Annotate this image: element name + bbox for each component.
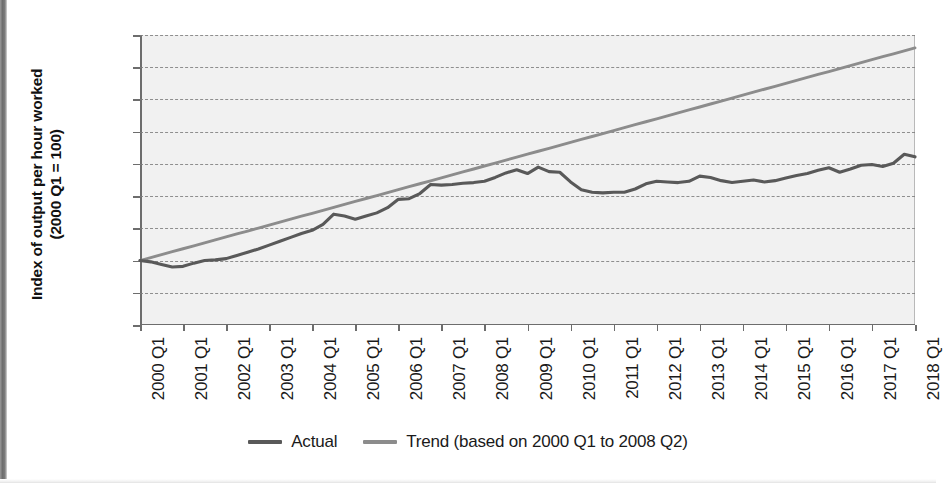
x-tick-label-2018-Q1: 2018 Q1 [924, 337, 944, 400]
legend-label-trend: Trend (based on 2000 Q1 to 2008 Q2) [406, 432, 688, 452]
x-tick-label-2013-Q1: 2013 Q1 [709, 337, 729, 400]
x-tick-label-2000-Q1: 2000 Q1 [149, 337, 169, 400]
x-tick-label-2007-Q1: 2007 Q1 [450, 337, 470, 400]
x-tick-2003-Q1 [269, 325, 271, 331]
y-axis-title-line-2: (2000 Q1 = 100) [46, 34, 65, 334]
x-tick-2011-Q1 [614, 325, 616, 331]
x-tick-2010-Q1 [571, 325, 573, 331]
x-tick-2015-Q1 [786, 325, 788, 331]
x-tick-2006-Q1 [398, 325, 400, 331]
series-line-actual [140, 154, 915, 267]
series-line-trend [140, 48, 915, 261]
x-tick-label-2003-Q1: 2003 Q1 [278, 337, 298, 400]
x-tick-2018-Q1 [915, 325, 917, 331]
x-tick-label-2004-Q1: 2004 Q1 [321, 337, 341, 400]
x-tick-2009-Q1 [528, 325, 530, 331]
x-tick-label-2016-Q1: 2016 Q1 [838, 337, 858, 400]
y-tick-mark-115 [133, 164, 140, 166]
x-tick-2001-Q1 [183, 325, 185, 331]
y-tick-mark-105 [133, 228, 140, 230]
x-tick-2008-Q1 [484, 325, 486, 331]
x-tick-2004-Q1 [312, 325, 314, 331]
x-tick-2000-Q1 [140, 325, 142, 331]
x-tick-label-2001-Q1: 2001 Q1 [192, 337, 212, 400]
x-tick-2013-Q1 [700, 325, 702, 331]
x-tick-label-2008-Q1: 2008 Q1 [493, 337, 513, 400]
y-tick-mark-90 [133, 325, 140, 327]
x-tick-2002-Q1 [226, 325, 228, 331]
scan-edge-artifact [0, 0, 7, 483]
x-tick-2005-Q1 [355, 325, 357, 331]
x-tick-label-2010-Q1: 2010 Q1 [580, 337, 600, 400]
legend-item-trend[interactable]: Trend (based on 2000 Q1 to 2008 Q2) [363, 432, 688, 452]
y-tick-mark-125 [133, 99, 140, 101]
x-tick-label-2011-Q1: 2011 Q1 [623, 337, 643, 399]
x-tick-label-2005-Q1: 2005 Q1 [364, 337, 384, 400]
x-tick-2007-Q1 [441, 325, 443, 331]
x-tick-2017-Q1 [872, 325, 874, 331]
y-tick-mark-95 [133, 293, 140, 295]
y-tick-mark-130 [133, 67, 140, 69]
x-tick-2016-Q1 [829, 325, 831, 331]
legend-swatch-actual [248, 440, 282, 444]
chart-legend: Actual Trend (based on 2000 Q1 to 2008 Q… [0, 432, 936, 452]
x-tick-2012-Q1 [657, 325, 659, 331]
x-tick-label-2017-Q1: 2017 Q1 [881, 337, 901, 400]
legend-item-actual[interactable]: Actual [248, 432, 337, 452]
y-axis-title-line-1: Index of output per hour worked [27, 34, 46, 334]
x-tick-label-2015-Q1: 2015 Q1 [795, 337, 815, 400]
x-tick-label-2014-Q1: 2014 Q1 [752, 337, 772, 400]
x-tick-label-2012-Q1: 2012 Q1 [666, 337, 686, 400]
x-tick-2014-Q1 [743, 325, 745, 331]
y-tick-mark-135 [133, 35, 140, 37]
x-tick-label-2006-Q1: 2006 Q1 [407, 337, 427, 400]
series-lines [140, 35, 915, 325]
y-axis-title: Index of output per hour worked (2000 Q1… [27, 34, 66, 334]
x-tick-label-2009-Q1: 2009 Q1 [537, 337, 557, 400]
scan-bottom-artifact [0, 479, 936, 483]
legend-label-actual: Actual [291, 432, 337, 452]
plot-area: 9095100105110115120125130135 [140, 35, 915, 325]
legend-swatch-trend [363, 440, 397, 444]
y-tick-mark-120 [133, 132, 140, 134]
x-tick-label-2002-Q1: 2002 Q1 [235, 337, 255, 400]
y-tick-mark-110 [133, 196, 140, 198]
